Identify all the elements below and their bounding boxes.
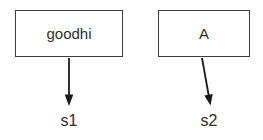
target-s1-label: s1	[47, 112, 91, 130]
node-goodhi: goodhi	[15, 10, 123, 57]
node-goodhi-label: goodhi	[46, 25, 91, 42]
target-s2-label: s2	[187, 112, 231, 130]
edge-arrow-goodhi-s1	[65, 58, 74, 106]
node-A-label: A	[199, 25, 209, 42]
edge-arrow-A-s2	[202, 58, 213, 106]
diagram-canvas: goodhi A s1 s2	[0, 0, 263, 140]
node-A: A	[158, 10, 250, 57]
